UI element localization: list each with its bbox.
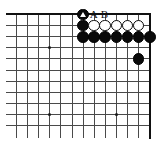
- star-point: [48, 113, 51, 116]
- black-stone[interactable]: [77, 31, 89, 43]
- white-stone[interactable]: [88, 20, 100, 32]
- goban[interactable]: AB: [0, 0, 157, 144]
- grid-line-vertical: [27, 14, 28, 138]
- star-point: [48, 46, 51, 49]
- black-stone[interactable]: [122, 31, 134, 43]
- star-point: [115, 113, 118, 116]
- black-stone[interactable]: [133, 53, 145, 65]
- white-stone[interactable]: [122, 20, 134, 32]
- white-stone[interactable]: [111, 20, 123, 32]
- grid-line-vertical: [60, 14, 61, 138]
- black-stone[interactable]: [99, 31, 111, 43]
- grid-line-vertical: [38, 14, 39, 138]
- grid-line-vertical: [72, 14, 73, 138]
- go-board-diagram: AB: [0, 0, 157, 144]
- black-stone[interactable]: [77, 20, 89, 32]
- white-stone[interactable]: [99, 20, 111, 32]
- black-stone[interactable]: [88, 31, 100, 43]
- black-stone[interactable]: [144, 31, 156, 43]
- grid-line-vertical: [16, 14, 17, 138]
- triangle-mark-icon: [80, 12, 86, 17]
- black-stone[interactable]: [111, 31, 123, 43]
- white-stone[interactable]: [133, 20, 145, 32]
- black-stone[interactable]: [133, 31, 145, 43]
- grid-line-vertical: [49, 14, 50, 138]
- point-label: A: [90, 9, 98, 20]
- point-label: B: [101, 9, 108, 20]
